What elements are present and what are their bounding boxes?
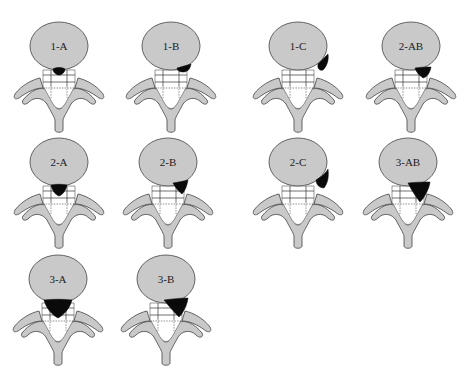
vertebra-drawing: 3-A bbox=[8, 253, 108, 365]
vertebra-label: 1-C bbox=[290, 40, 307, 52]
vertebra-drawing: 2-A bbox=[9, 136, 109, 248]
vertebra-1-c: 1-C bbox=[248, 20, 348, 132]
vertebra-label: 2-B bbox=[160, 156, 177, 168]
vertebra-label: 3-A bbox=[49, 273, 66, 285]
vertebra-2-c: 2-C bbox=[248, 136, 348, 248]
vertebra-label: 1-B bbox=[163, 40, 180, 52]
vertebra-drawing: 2-B bbox=[118, 136, 218, 248]
vertebra-3-ab: 3-AB bbox=[358, 136, 458, 248]
vertebra-label: 2-C bbox=[290, 156, 307, 168]
disc-herniation-classification-diagram: 1-A 1-B bbox=[0, 0, 468, 380]
vertebra-drawing: 2-C bbox=[248, 136, 348, 248]
vertebra-label: 2-AB bbox=[399, 40, 423, 52]
vertebra-3-b: 3-B bbox=[116, 253, 216, 365]
vertebra-2-ab: 2-AB bbox=[361, 20, 461, 132]
vertebra-2-a: 2-A bbox=[9, 136, 109, 248]
vertebra-label: 1-A bbox=[50, 40, 67, 52]
vertebra-drawing: 3-B bbox=[116, 253, 216, 365]
vertebra-drawing: 1-B bbox=[121, 20, 221, 132]
vertebra-drawing: 1-A bbox=[9, 20, 109, 132]
vertebra-label: 2-A bbox=[50, 156, 67, 168]
vertebra-label: 3-AB bbox=[396, 156, 420, 168]
vertebra-2-b: 2-B bbox=[118, 136, 218, 248]
vertebra-drawing: 1-C bbox=[248, 20, 348, 132]
vertebra-1-b: 1-B bbox=[121, 20, 221, 132]
vertebra-drawing: 2-AB bbox=[361, 20, 461, 132]
vertebra-label: 3-B bbox=[158, 273, 175, 285]
vertebra-3-a: 3-A bbox=[8, 253, 108, 365]
vertebra-drawing: 3-AB bbox=[358, 136, 458, 248]
vertebra-1-a: 1-A bbox=[9, 20, 109, 132]
